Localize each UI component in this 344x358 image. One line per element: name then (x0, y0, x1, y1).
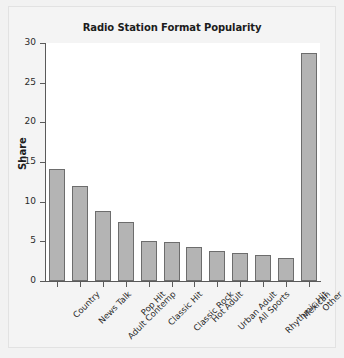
bar-slot (252, 43, 275, 281)
x-axis-tick-mark (57, 282, 58, 287)
x-axis-tick-mark (217, 282, 218, 287)
bar-slot (137, 43, 160, 281)
y-axis-tick-mark (40, 83, 45, 84)
bar[interactable] (301, 53, 317, 281)
y-axis-tick-label: 30 (25, 37, 36, 47)
y-axis-tick-label: 20 (25, 116, 36, 126)
y-axis-tick-mark (40, 162, 45, 163)
bar-series (46, 43, 320, 281)
bar-slot (46, 43, 69, 281)
bar-slot (183, 43, 206, 281)
bar[interactable] (278, 258, 294, 281)
bar[interactable] (164, 242, 180, 281)
bar-slot (115, 43, 138, 281)
x-axis-tick-mark (286, 282, 287, 287)
bar[interactable] (49, 169, 65, 281)
bar-slot (206, 43, 229, 281)
x-axis-tick-mark (263, 282, 264, 287)
y-axis-tick-label: 25 (25, 77, 36, 87)
bar[interactable] (186, 247, 202, 281)
x-axis-tick-mark (172, 282, 173, 287)
x-axis-tick-mark (126, 282, 127, 287)
x-axis-tick-mark (240, 282, 241, 287)
y-axis-tick-label: 15 (25, 156, 36, 166)
bar-slot (297, 43, 320, 281)
y-axis-tick-mark (40, 202, 45, 203)
bar-slot (92, 43, 115, 281)
y-axis-tick-mark (40, 122, 45, 123)
x-axis-line (45, 281, 321, 282)
y-axis-tick-mark (40, 281, 45, 282)
x-axis-tick-mark (194, 282, 195, 287)
bar-slot (160, 43, 183, 281)
x-axis-tick-mark (80, 282, 81, 287)
bar[interactable] (255, 255, 271, 281)
bar-slot (229, 43, 252, 281)
bar-slot (274, 43, 297, 281)
bar[interactable] (72, 186, 88, 281)
bar[interactable] (141, 241, 157, 281)
x-axis-tick-mark (149, 282, 150, 287)
chart-figure: Radio Station Format Popularity Share 05… (0, 0, 344, 358)
x-axis-tick-mark (309, 282, 310, 287)
bar[interactable] (95, 211, 111, 281)
x-axis-tick-mark (103, 282, 104, 287)
bar[interactable] (209, 251, 225, 281)
y-axis-tick-mark (40, 241, 45, 242)
bar[interactable] (118, 222, 134, 282)
y-axis-tick-label: 5 (30, 235, 36, 245)
y-axis-tick-mark (40, 43, 45, 44)
y-axis-tick-label: 0 (30, 275, 36, 285)
chart-title: Radio Station Format Popularity (0, 22, 344, 33)
bar[interactable] (232, 253, 248, 281)
y-axis-tick-label: 10 (25, 196, 36, 206)
y-axis-title: Share (17, 124, 28, 184)
bar-slot (69, 43, 92, 281)
